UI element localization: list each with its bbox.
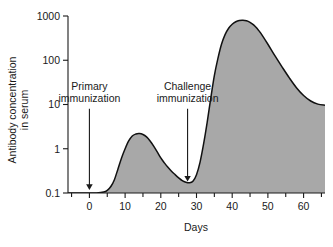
y-tick-label: 0.1: [45, 187, 60, 199]
x-tick-label: 10: [119, 200, 131, 212]
x-tick-label: 60: [298, 200, 310, 212]
primary-immunization-label-line1: Primary: [71, 80, 108, 92]
chart-figure: 0.11101001000 0102030405060 Antibody con…: [0, 0, 333, 247]
antibody-response-chart: 0.11101001000 0102030405060 Antibody con…: [0, 0, 333, 247]
x-tick-label: 20: [155, 200, 167, 212]
y-tick-label: 1: [54, 143, 60, 155]
y-tick-label: 100: [42, 54, 60, 66]
primary-immunization-label-line2: immunization: [58, 92, 120, 104]
challenge-immunization-label-line1: Challenge: [164, 80, 211, 92]
challenge-immunization-label-line2: immunization: [157, 92, 219, 104]
x-axis-title: Days: [184, 221, 208, 233]
x-tick-label: 50: [262, 200, 274, 212]
x-tick-label: 0: [86, 200, 92, 212]
y-axis-title-line2: in serum: [18, 90, 30, 131]
x-tick-label: 40: [226, 200, 238, 212]
x-tick-label: 30: [191, 200, 203, 212]
y-axis-title-line1: Antibody concentration: [6, 56, 18, 163]
y-tick-label: 1000: [37, 10, 61, 22]
